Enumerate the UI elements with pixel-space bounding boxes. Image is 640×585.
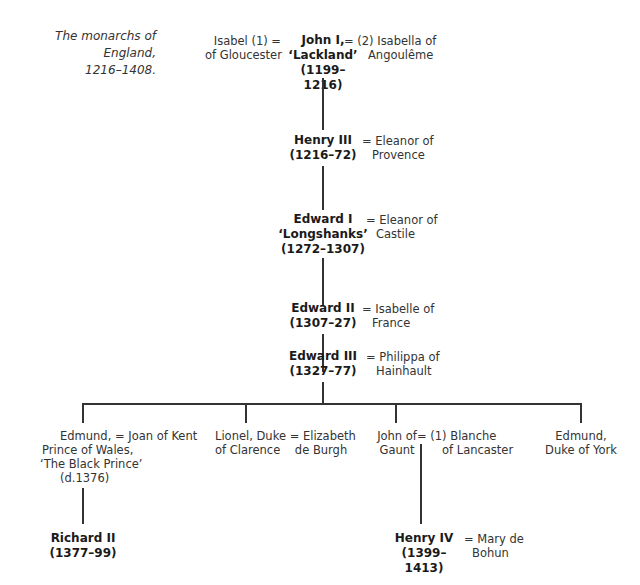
monarch-edward-i: Edward I ‘Longshanks’ (1272–1307) bbox=[276, 212, 370, 257]
spouse-isabel-of-gloucester: Isabel (1) = of Gloucester bbox=[205, 34, 281, 62]
monarch-edward-iii: Edward III (1327–77) bbox=[276, 349, 370, 379]
spouse-eleanor-of-castile: = Eleanor of Castile bbox=[366, 213, 438, 241]
line-edward1-to-edward2 bbox=[322, 258, 324, 306]
child-lionel-duke-of-clarence: Lionel, Duke = Elizabeth of Clarence de … bbox=[215, 429, 356, 457]
monarch-edward-ii: Edward II (1307–27) bbox=[280, 301, 366, 331]
diagram-caption: The monarchs of England, 1216–1408. bbox=[20, 28, 156, 79]
drop-black-prince bbox=[82, 403, 84, 423]
spouse-eleanor-of-provence: = Eleanor of Provence bbox=[362, 134, 434, 162]
children-bar bbox=[82, 403, 582, 405]
drop-lionel bbox=[245, 403, 247, 423]
spouse-mary-de-bohun: = Mary de Bohun bbox=[464, 532, 524, 560]
drop-york bbox=[580, 403, 582, 423]
line-edward3-to-children bbox=[322, 382, 324, 404]
line-john-to-henry3 bbox=[322, 78, 324, 130]
caption-line-1: The monarchs of England, bbox=[20, 28, 156, 62]
spouse-philippa-of-hainhault: = Philippa of Hainhault bbox=[366, 350, 440, 378]
line-henry3-to-edward1 bbox=[322, 166, 324, 210]
line-gaunt-to-henry4 bbox=[420, 444, 422, 524]
monarch-henry-iv: Henry IV (1399–1413) bbox=[384, 531, 464, 576]
spouse-isabella-of-angouleme: = (2) Isabella of Angoulême bbox=[344, 34, 436, 62]
line-black-prince-to-richard2 bbox=[82, 488, 84, 524]
spouse-blanche-of-lancaster: = (1) Blanche of Lancaster bbox=[417, 429, 513, 457]
child-john-of-gaunt: John of Gaunt bbox=[375, 429, 419, 457]
spouse-isabelle-of-france: = Isabelle of France bbox=[362, 302, 434, 330]
monarch-richard-ii: Richard II (1377–99) bbox=[46, 531, 120, 561]
caption-line-2: 1216–1408. bbox=[20, 62, 156, 79]
drop-gaunt bbox=[395, 403, 397, 423]
child-edmund-duke-of-york: Edmund, Duke of York bbox=[540, 429, 622, 457]
child-edward-black-prince: Edmund, = Joan of Kent Prince of Wales, … bbox=[40, 429, 197, 485]
monarch-henry-iii: Henry III (1216–72) bbox=[280, 133, 366, 163]
